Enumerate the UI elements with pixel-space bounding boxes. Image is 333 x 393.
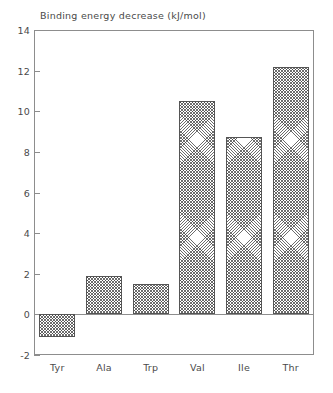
y-axis-tick-label: -2 — [4, 350, 30, 361]
x-axis-label-tyr: Tyr — [50, 362, 64, 373]
y-axis-tick-label: 2 — [4, 268, 30, 279]
chart-title: Binding energy decrease (kJ/mol) — [40, 10, 206, 21]
y-axis-tick — [34, 152, 40, 153]
bar-val — [179, 101, 215, 314]
x-axis-label-thr: Thr — [282, 362, 298, 373]
bar-thr — [273, 67, 309, 315]
y-axis-tick-label: 6 — [4, 187, 30, 198]
y-axis-tick — [34, 71, 40, 72]
y-axis-tick — [34, 193, 40, 194]
y-axis-tick — [34, 355, 40, 356]
y-axis-tick-label: 14 — [4, 25, 30, 36]
y-axis-tick-label: 0 — [4, 309, 30, 320]
bar-chart: Binding energy decrease (kJ/mol) 1412108… — [0, 0, 333, 393]
y-axis-tick-label: 12 — [4, 65, 30, 76]
y-axis-tick — [34, 111, 40, 112]
x-axis-label-ala: Ala — [96, 362, 112, 373]
x-axis-label-trp: Trp — [143, 362, 158, 373]
y-axis-tick-label: 10 — [4, 106, 30, 117]
y-axis-tick — [34, 233, 40, 234]
x-axis-label-ile: Ile — [238, 362, 250, 373]
bar-tyr — [39, 314, 75, 336]
y-axis-tick-label: 8 — [4, 146, 30, 157]
bar-ala — [86, 276, 122, 315]
y-axis-tick-label: 4 — [4, 228, 30, 239]
y-axis-tick — [34, 274, 40, 275]
bar-ile — [226, 137, 262, 315]
y-axis-tick — [34, 30, 40, 31]
bar-trp — [133, 284, 169, 314]
x-axis-label-val: Val — [190, 362, 205, 373]
